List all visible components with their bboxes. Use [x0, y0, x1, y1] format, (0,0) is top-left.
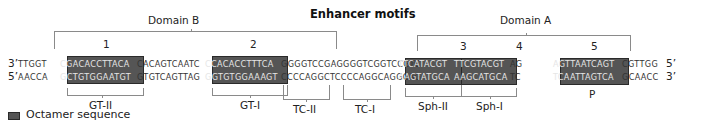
motif-number-2: 2	[250, 38, 257, 50]
motif-number-1: 1	[103, 38, 110, 50]
top-strand-3prime-end: 3’	[8, 57, 18, 69]
bottom-seg-spacer-1: GTGTCAGTTAG	[137, 72, 205, 83]
label-sph-i: Sph-I	[476, 100, 503, 112]
tc-ii-bracket-left	[283, 85, 284, 100]
bottom-seg-motif-1: GCTGTGGAATGT	[60, 72, 137, 83]
gt-ii-bracket-left	[67, 88, 68, 96]
gt-i-bracket-right	[287, 85, 288, 96]
motif-number-5: 5	[591, 40, 598, 52]
bottom-strand: 5’AACCAGCTGTGGAATGTGTGTCAGTTAGGGTGTGGAAA…	[8, 71, 676, 83]
bottom-seg-tc-region: CCCCAGGCTCCCCAGGCAGGCAG	[281, 72, 398, 83]
domain-b-bracket-top	[54, 31, 337, 32]
motif-number-4: 4	[516, 40, 523, 52]
domain-b-label: Domain B	[148, 14, 199, 26]
tc-ii-bracket-right	[329, 85, 330, 100]
top-seg-flank-left: TTGGT	[18, 59, 60, 70]
bottom-seg-flank-left: AACCA	[18, 72, 60, 83]
domain-b-bracket-left	[54, 31, 55, 49]
gt-i-bracket-left	[212, 88, 213, 96]
domain-a-bracket-left	[417, 35, 418, 51]
diagram-title: Enhancer motifs	[310, 7, 416, 21]
bottom-seg-motif-2: GGTGTGGAAAGT	[205, 72, 281, 83]
top-seg-spacer-2: AG	[510, 59, 553, 70]
gt-ii-bracket-tick	[102, 95, 103, 98]
sph-i-bracket-tick	[490, 96, 491, 99]
tc-i-bracket-right	[390, 85, 391, 100]
label-gt-i: GT-I	[240, 99, 260, 111]
top-seg-spacer-1: CACAGTCAATC	[137, 59, 205, 70]
top-strand-5prime-end: 5’	[666, 57, 676, 69]
sph-bracket-right	[516, 88, 517, 97]
legend-octamer-label: Octamer sequence	[26, 108, 130, 121]
bottom-seg-motif-5: TCAATTAGTCA	[553, 72, 622, 83]
label-tc-ii: TC-II	[293, 103, 316, 115]
gt-ii-bracket-right	[143, 88, 144, 96]
domain-a-label: Domain A	[500, 14, 551, 26]
top-seg-motif-3: TTCATACGT	[398, 59, 454, 70]
top-seg-motif-1: CGACACCTTACA	[60, 59, 137, 70]
bottom-seg-spacer-2: TC	[510, 72, 553, 83]
top-strand: 3’TTGGTCGACACCTTACACACAGTCAATCCCACACCTTT…	[8, 58, 676, 70]
gt-i-bracket-tick	[250, 95, 251, 98]
domain-a-bracket-top	[417, 35, 631, 36]
tc-i-bracket-tick	[367, 99, 368, 102]
top-seg-motif-5: AGTTAATCAGT	[553, 59, 622, 70]
domain-a-bracket-tick	[526, 33, 527, 36]
bottom-seg-flank-right: GCAACC	[622, 72, 666, 83]
bottom-strand-3prime-end: 3’	[666, 70, 676, 82]
domain-a-bracket-right	[630, 35, 631, 51]
top-seg-tc-region: GGGGTCCGAGGGGTCGGTCCGTC	[281, 59, 398, 70]
bottom-strand-5prime-end: 5’	[8, 70, 18, 82]
sph-bracket-middle	[461, 85, 462, 97]
sph-ii-bracket-tick	[433, 96, 434, 99]
bottom-seg-motif-3: AAGTATGCA	[398, 72, 454, 83]
label-sph-ii: Sph-II	[418, 100, 448, 112]
tc-ii-bracket-tick	[306, 99, 307, 102]
domain-b-bracket-right	[336, 31, 337, 49]
legend-octamer-swatch	[8, 112, 20, 120]
top-seg-motif-2: CCACACCTTTCA	[205, 59, 281, 70]
tc-i-bracket-left	[343, 85, 344, 100]
gt-ii-bracket	[67, 95, 144, 96]
top-seg-flank-right: CGTTGG	[622, 59, 666, 70]
top-seg-motif-4: TTCGTACGT	[454, 59, 510, 70]
label-tc-i: TC-I	[355, 103, 375, 115]
bottom-seg-motif-4: AAGCATGCA	[454, 72, 510, 83]
domain-b-bracket-tick	[191, 29, 192, 32]
label-p: P	[589, 88, 595, 100]
motif-number-3: 3	[460, 40, 467, 52]
sph-bracket-left	[405, 88, 406, 97]
